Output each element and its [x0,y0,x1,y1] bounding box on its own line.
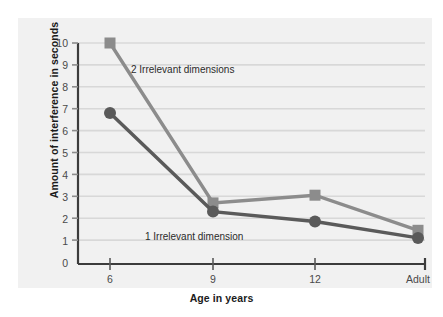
y-tick-label-1: 1 [46,236,68,246]
data-point-marker [207,206,219,218]
x-tick-label-6: 6 [107,273,113,285]
x-axis-title: Age in years [0,292,443,304]
x-tick-label-adult: Adult [406,273,430,285]
line-chart: 0 1 2 3 4 5 6 7 8 9 10 6 9 12 Adult Amou… [0,0,443,317]
y-axis-title: Amount of interference in seconds [48,10,60,210]
series-label-1-irrelevant-dimension: 1 Irrelevant dimension [145,231,243,242]
x-axis [78,258,425,270]
x-tick-label-9: 9 [210,273,216,285]
y-tick-label-0: 0 [46,258,68,268]
series-1-irrelevant-dimension [104,107,424,244]
y-tick-label-2: 2 [46,214,68,224]
series-label-2-irrelevant-dimensions: 2 Irrelevant dimensions [131,64,234,75]
data-point-marker [105,38,116,49]
data-point-marker [309,216,321,228]
data-point-marker [104,107,116,119]
x-tick-label-12: 12 [309,273,321,285]
data-point-marker [412,232,424,244]
data-point-marker [310,190,321,201]
